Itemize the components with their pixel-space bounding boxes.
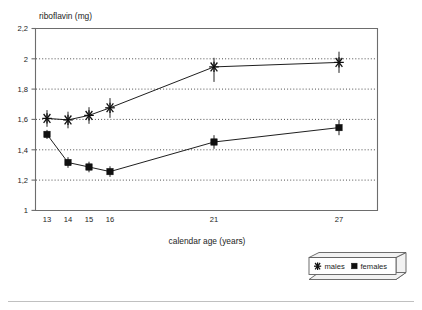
ytick-label-1-4: 1,4 xyxy=(17,146,28,155)
ytick-label-1-8: 1,8 xyxy=(17,85,28,94)
females-marker-27 xyxy=(336,124,342,130)
square-marker xyxy=(352,263,358,269)
females-marker-21 xyxy=(211,139,217,145)
males-marker-27 xyxy=(334,57,344,67)
chart-canvas: 2,2 2 1,8 1,6 1,4 1,2 1 13 14 15 16 21 2… xyxy=(0,0,422,310)
star-marker xyxy=(314,262,321,270)
legend-label-males: males xyxy=(325,262,345,271)
xtick-label-27: 27 xyxy=(335,215,343,224)
females-marker-15 xyxy=(86,164,92,170)
ytick-label-1: 1 xyxy=(24,206,28,215)
males-marker-14 xyxy=(63,115,73,125)
riboflavin-chart-figure: 2,2 2 1,8 1,6 1,4 1,2 1 13 14 15 16 21 2… xyxy=(0,0,422,310)
males-marker-15 xyxy=(84,110,94,120)
males-marker-21 xyxy=(209,62,219,72)
y-axis-title: riboflavin (mg) xyxy=(39,11,92,21)
ytick-label-2: 2 xyxy=(24,55,28,64)
legend-label-females: females xyxy=(361,262,388,271)
ytick-label-1-2: 1,2 xyxy=(17,176,28,185)
males-marker-16 xyxy=(105,103,115,113)
ytick-label-1-6: 1,6 xyxy=(17,115,28,124)
xtick-label-16: 16 xyxy=(106,215,114,224)
x-axis-title: calendar age (years) xyxy=(169,236,246,246)
males-marker-13 xyxy=(42,113,52,123)
xtick-label-13: 13 xyxy=(43,215,51,224)
ytick-label-2-2: 2,2 xyxy=(17,24,28,33)
xtick-label-14: 14 xyxy=(64,215,72,224)
females-marker-13 xyxy=(44,131,50,137)
legend[interactable]: males females xyxy=(309,253,406,280)
xtick-label-15: 15 xyxy=(85,215,93,224)
females-marker-16 xyxy=(107,168,113,174)
xtick-label-21: 21 xyxy=(210,215,218,224)
females-marker-14 xyxy=(65,159,71,165)
legend-box-top xyxy=(309,253,406,258)
